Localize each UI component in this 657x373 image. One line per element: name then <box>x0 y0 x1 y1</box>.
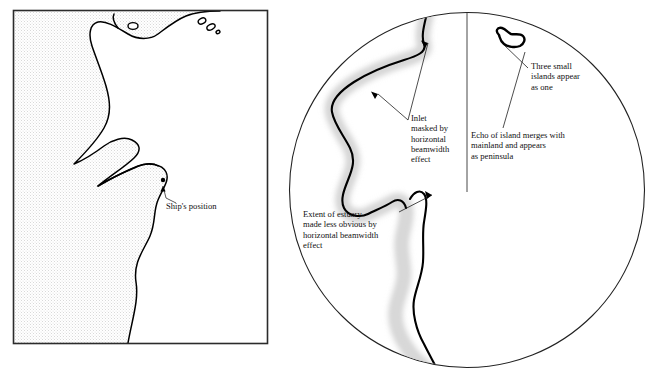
label-three-small-islands: Three small islands appear as one <box>531 61 601 92</box>
label-ships-position: Ship's position <box>166 201 217 211</box>
radar-ppi-panel <box>0 0 657 373</box>
label-inlet-masked: Inlet masked by horizontal beamwidth eff… <box>411 113 463 164</box>
label-echo-of-island: Echo of island merges with mainland and … <box>471 130 607 161</box>
label-extent-of-estuary: Extent of estuary made less obvious by h… <box>303 209 403 250</box>
figure-root: Ship's position Inlet masked by horizont… <box>0 0 657 373</box>
